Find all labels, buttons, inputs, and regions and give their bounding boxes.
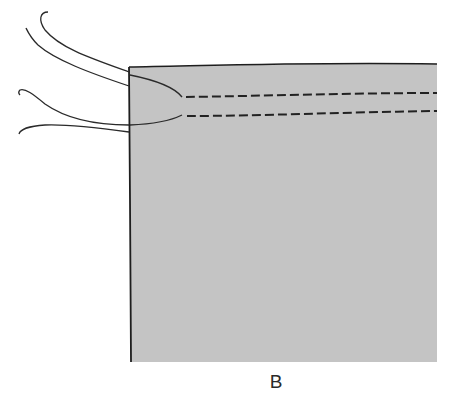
- figure-label: B: [265, 371, 287, 393]
- loose-thread-2: [26, 28, 129, 86]
- loose-thread-4: [19, 125, 129, 134]
- fabric-panel: [129, 64, 437, 362]
- loose-thread-3: [19, 90, 129, 125]
- loose-thread-1: [41, 12, 129, 72]
- sewing-gathering-illustration: [0, 0, 451, 399]
